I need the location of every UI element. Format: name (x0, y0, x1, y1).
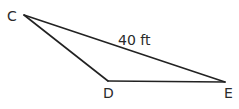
edge-cd (24, 15, 108, 81)
vertex-label-e: E (224, 85, 233, 101)
vertex-label-d: D (103, 85, 114, 101)
edge-ce (24, 15, 225, 82)
triangle-cde-diagram: C D E 40 ft (0, 0, 239, 109)
edge-de (108, 81, 225, 82)
edge-ce-length-label: 40 ft (118, 32, 151, 48)
vertex-label-c: C (7, 8, 17, 24)
